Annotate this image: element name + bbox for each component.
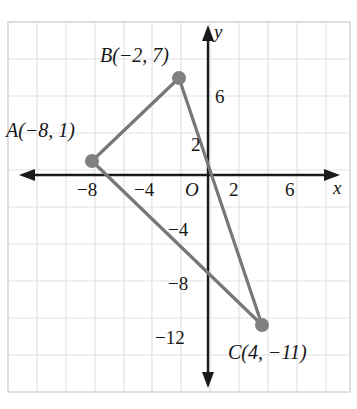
- x-tick-label-6: 6: [285, 180, 295, 199]
- segment-ab: [92, 78, 179, 161]
- point-b-marker: [172, 71, 186, 85]
- y-tick-label-2: 2: [191, 135, 201, 154]
- y-tick-label-6: 6: [215, 87, 225, 106]
- point-a-marker: [85, 154, 99, 168]
- y-tick-label-neg4: −4: [168, 220, 188, 239]
- y-axis-label: y: [214, 22, 222, 41]
- x-tick-label-neg4: −4: [134, 180, 154, 199]
- point-b-label: B(−2, 7): [100, 45, 169, 65]
- x-axis-arrow-left: [19, 169, 35, 181]
- x-tick-label-neg8: −8: [77, 180, 97, 199]
- coordinate-plane-figure: A(−8, 1) B(−2, 7) C(4, −11) −8 −4 2 6 O …: [0, 0, 357, 409]
- point-c-marker: [255, 318, 269, 332]
- point-c-label: C(4, −11): [228, 342, 307, 362]
- y-axis-arrow-up: [202, 25, 214, 41]
- origin-label: O: [185, 180, 199, 199]
- y-tick-label-neg12: −12: [155, 328, 185, 347]
- y-axis-arrow-down: [202, 372, 214, 388]
- point-a-label: A(−8, 1): [6, 120, 75, 140]
- y-tick-label-neg8: −8: [168, 274, 188, 293]
- segment-bc: [179, 78, 262, 325]
- x-axis-label: x: [333, 178, 341, 197]
- x-tick-label-2: 2: [229, 180, 239, 199]
